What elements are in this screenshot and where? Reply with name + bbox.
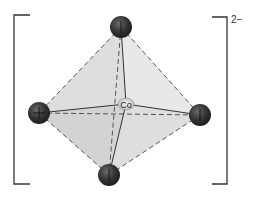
charge-label: 2−	[231, 14, 242, 25]
ligand-atom-bottom	[98, 164, 120, 186]
center-atom-label: Co	[120, 100, 132, 110]
right-bracket	[212, 17, 227, 184]
left-bracket	[14, 15, 30, 184]
ligand-atom-right	[189, 104, 211, 126]
ligand-atom-left	[28, 102, 50, 124]
ligand-atom-top	[110, 16, 132, 38]
central-atom: Co	[118, 98, 134, 110]
complex-diagram: Co	[0, 0, 261, 205]
